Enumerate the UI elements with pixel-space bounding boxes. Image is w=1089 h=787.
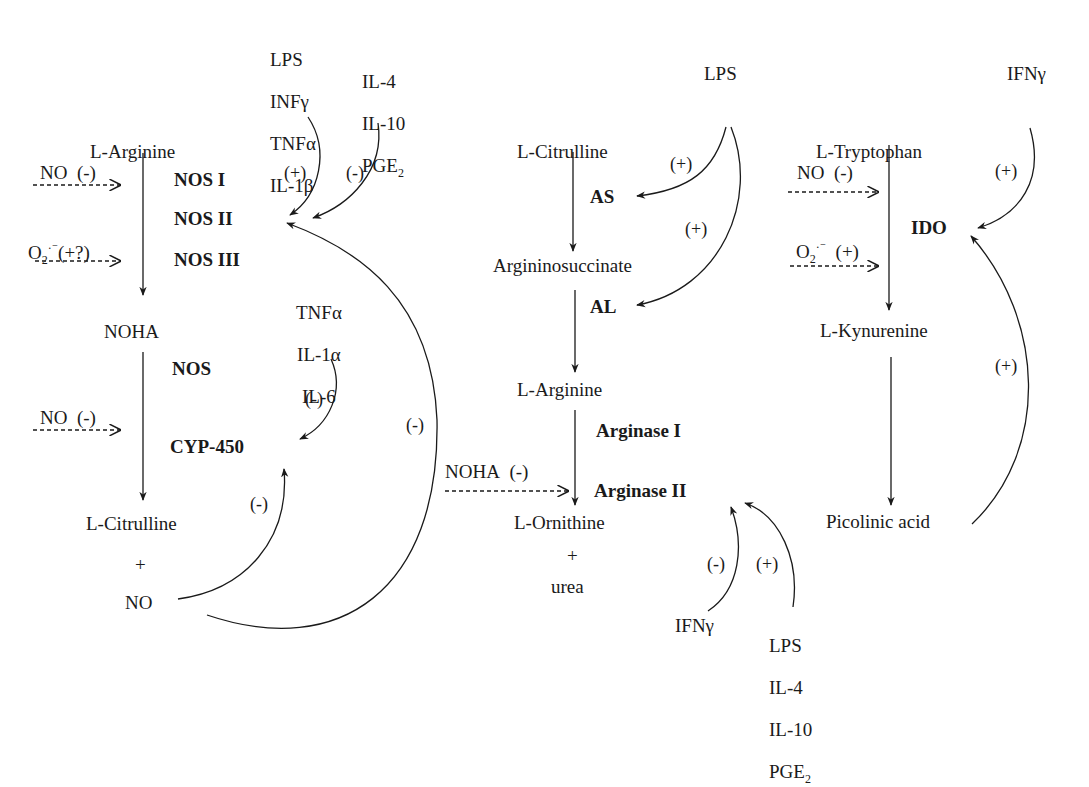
enzyme-nos1: NOS I [174, 169, 225, 191]
mid-arginine: L-Arginine [517, 379, 602, 401]
right-picolinic-acid: Picolinic acid [826, 511, 930, 533]
left-product-no: NO [125, 592, 152, 614]
no-inhibitor-label: NO (-) [40, 162, 96, 184]
right-ifn-activator: IFNγ [1007, 63, 1046, 85]
arginase-ifn-inhibitor: IFNγ [675, 615, 714, 637]
enzyme-arginase1: Arginase I [596, 420, 681, 442]
nos2-activators-list: LPS INFγ TNFα IL-1β [270, 28, 316, 217]
arrow-no-to-cyp [178, 469, 285, 599]
mid-plus: + [567, 545, 578, 567]
right-superoxide: O2·⁻ (+) [796, 236, 859, 270]
enzyme-as: AS [590, 186, 614, 208]
left-intermediate-noha: NOHA [104, 321, 159, 343]
right-substrate-tryptophan: L-Tryptophan [816, 141, 922, 163]
suppressors-sign: (-) [346, 163, 364, 184]
no-to-nos2-sign: (-) [406, 415, 424, 436]
enzyme-al: AL [590, 296, 616, 318]
arrow-picolinic-to-ido [971, 236, 1029, 524]
no-inhibitor-2-label: NO (-) [40, 407, 96, 429]
enzyme-arginase2: Arginase II [594, 480, 686, 502]
right-kynurenine: L-Kynurenine [820, 320, 928, 342]
enzyme-nos3: NOS III [174, 249, 240, 271]
ifn-to-arginase-sign: (-) [707, 554, 725, 575]
enzyme-nos2: NOS II [174, 208, 233, 230]
left-product-citrulline: L-Citrulline [86, 513, 177, 535]
enzyme-nos: NOS [172, 358, 211, 380]
left-substrate: L-Arginine [90, 141, 175, 163]
superoxide-label: O2·⁻(+?) [28, 237, 90, 271]
activators-to-arginase-sign: (+) [756, 554, 778, 575]
mid-ornithine: L-Ornithine [514, 512, 605, 534]
noha-inhibitor-label: NOHA (-) [445, 461, 528, 483]
mid-urea: urea [551, 576, 584, 598]
cyp-inhibitors-sign: (-) [305, 389, 323, 410]
left-plus: + [135, 554, 146, 576]
lps-to-al-sign: (+) [685, 219, 707, 240]
mid-substrate-citrulline: L-Citrulline [517, 141, 608, 163]
ifn-to-ido-sign: (+) [995, 161, 1017, 182]
picolinic-feedback-sign: (+) [995, 356, 1017, 377]
right-no-inhibitor: NO (-) [797, 162, 853, 184]
mid-argininosuccinate: Argininosuccinate [493, 255, 632, 277]
no-to-cyp-sign: (-) [250, 494, 268, 515]
lps-to-as-sign: (+) [670, 154, 692, 175]
enzyme-cyp450: CYP-450 [170, 436, 244, 458]
enzyme-ido: IDO [911, 217, 947, 239]
activators-sign: (+) [284, 163, 306, 184]
nos2-suppressors-list: IL-4 IL-10 PGE2 [362, 50, 405, 205]
mid-lps: LPS [704, 63, 737, 85]
arginase-activators-list: LPS IL-4 IL-10 PGE2 [769, 614, 812, 787]
